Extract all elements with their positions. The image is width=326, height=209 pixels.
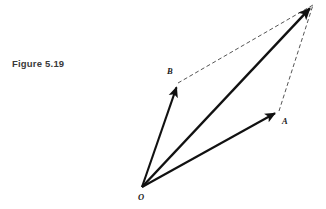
vector-or-resultant	[142, 8, 310, 187]
figure-container: Figure 5.19 O B A	[0, 0, 326, 209]
dashed-line-a-to-resultant	[279, 5, 313, 111]
vector-diagram-canvas: O B A	[0, 0, 326, 209]
vector-ob	[142, 87, 176, 187]
vector-oa	[142, 113, 275, 187]
point-label-a: A	[281, 116, 288, 126]
point-label-o: O	[138, 192, 144, 202]
point-label-b: B	[166, 66, 173, 76]
dashed-line-b-to-resultant	[178, 5, 313, 83]
